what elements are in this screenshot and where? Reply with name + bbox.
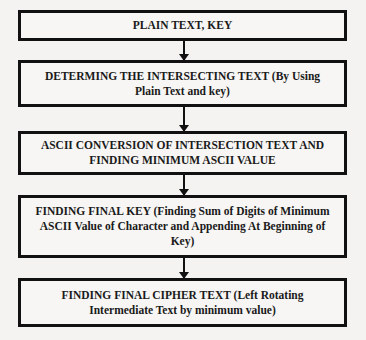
arrow-down-icon [183, 107, 185, 131]
step-ascii-conversion: ASCII CONVERSION OF INTERSECTION TEXT AN… [18, 131, 347, 175]
arrow-down-icon [183, 258, 185, 278]
step-final-cipher-text: FINDING FINAL CIPHER TEXT (Left Rotating… [18, 278, 347, 327]
step-label: PLAIN TEXT, KEY [133, 18, 233, 33]
step-label: FINDING FINAL CIPHER TEXT (Left Rotating… [35, 288, 330, 318]
step-final-key: FINDING FINAL KEY (Finding Sum of Digits… [18, 195, 347, 258]
step-label: ASCII CONVERSION OF INTERSECTION TEXT AN… [35, 138, 330, 168]
step-plain-text-key: PLAIN TEXT, KEY [18, 10, 347, 41]
step-label: DETERMING THE INTERSECTING TEXT (By Usin… [35, 69, 330, 99]
arrow-down-icon [183, 175, 185, 195]
arrow-down-icon [183, 41, 185, 60]
step-label: FINDING FINAL KEY (Finding Sum of Digits… [35, 204, 330, 249]
step-intersecting-text: DETERMING THE INTERSECTING TEXT (By Usin… [18, 60, 347, 107]
